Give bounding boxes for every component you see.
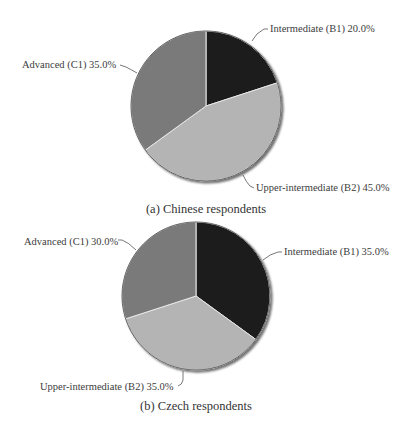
caption-a: (a) Chinese respondents	[146, 202, 266, 216]
label-b-b2: Upper-intermediate (B2) 35.0%	[40, 381, 174, 393]
figure: Intermediate (B1) 20.0% Advanced (C1) 35…	[0, 0, 409, 431]
pie-a-slices	[131, 31, 281, 181]
label-b-c1: Advanced (C1) 30.0%	[24, 236, 118, 248]
label-a-c1: Advanced (C1) 35.0%	[22, 59, 116, 71]
label-a-b1: Intermediate (B1) 20.0%	[270, 23, 375, 35]
pie-chart-chinese: Intermediate (B1) 20.0% Advanced (C1) 35…	[22, 23, 390, 216]
pie-chart-czech: Intermediate (B1) 35.0% Advanced (C1) 30…	[24, 222, 389, 413]
label-a-b2: Upper-intermediate (B2) 45.0%	[256, 182, 390, 194]
pie-b-slices	[122, 222, 270, 370]
label-b-b1: Intermediate (B1) 35.0%	[284, 246, 389, 258]
caption-b: (b) Czech respondents	[140, 399, 252, 413]
